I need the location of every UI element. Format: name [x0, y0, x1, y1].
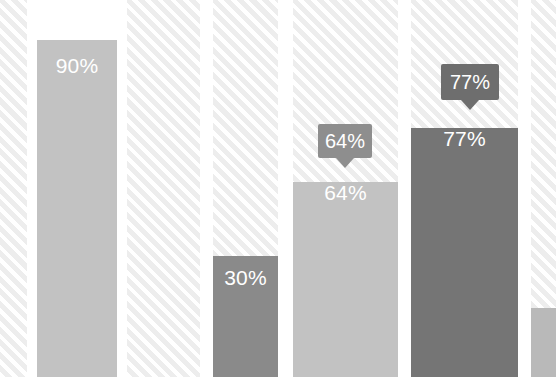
bar-tooltip[interactable]: 77% — [441, 64, 499, 100]
bar-tooltip[interactable]: 64% — [318, 124, 372, 158]
bar-value-label: 30% — [213, 267, 278, 288]
tooltip-value-label: 77% — [450, 72, 490, 93]
bar-value-label: 77% — [411, 128, 518, 149]
bar-value-label: 90% — [37, 55, 117, 76]
bar-column[interactable]: 77% — [411, 128, 518, 377]
bars-container: 90% 30% 64% 77% — [0, 0, 556, 377]
bar-chart: 90% 30% 64% 77% 64% 77% — [0, 0, 556, 377]
tooltip-pointer-icon — [461, 100, 479, 110]
bar-value-label: 64% — [293, 182, 398, 203]
bar-column[interactable]: 30% — [213, 256, 278, 377]
bar-column[interactable] — [531, 308, 556, 377]
bar-column[interactable]: 64% — [293, 182, 398, 377]
tooltip-pointer-icon — [336, 158, 354, 168]
tooltip-value-label: 64% — [325, 131, 365, 152]
bar-column[interactable]: 90% — [37, 40, 117, 377]
